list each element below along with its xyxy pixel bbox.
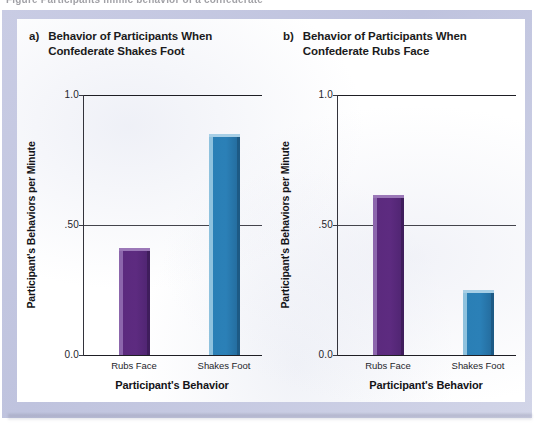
bar-b-shakes-foot-body (463, 293, 494, 355)
bar-b-shakes-foot-shadow (491, 293, 494, 355)
bar-b-shakes-foot[interactable] (463, 290, 494, 355)
x-axis-title-b: Participant's Behavior (327, 379, 525, 391)
x-axis-title-a: Participant's Behavior (73, 379, 271, 391)
bar-a-rubs-face[interactable] (119, 248, 150, 355)
bar-a-rubs-face-highlight (119, 251, 123, 355)
bar-a-shakes-foot-body (209, 137, 240, 355)
y-axis-title-b: Participant's Behaviors per Minute (276, 95, 293, 355)
y-tick-label-1.0-b: 1.0 (299, 89, 333, 100)
y-tick-label-1.0-a: 1.0 (45, 89, 79, 100)
bar-b-rubs-face-highlight (373, 198, 377, 355)
bar-a-shakes-foot-highlight (209, 137, 213, 355)
axis-baseline-b (337, 355, 516, 356)
y-tick-label-0.0-a: 0.0 (45, 349, 79, 360)
bar-a-rubs-face-shadow (147, 251, 150, 355)
figure-root: Figure Participants mimic behavior of a … (0, 0, 534, 430)
chart-panel-b: b) Behavior of Participants When Confede… (271, 19, 525, 402)
y-axis-title-a: Participant's Behaviors per Minute (22, 95, 39, 355)
bar-b-rubs-face-body (373, 198, 404, 355)
bar-b-rubs-face-shadow (401, 198, 404, 355)
axis-baseline-a (83, 355, 262, 356)
clipped-figure-caption: Figure Participants mimic behavior of a … (0, 0, 534, 9)
x-category-label-a-shakes-foot: Shakes Foot (185, 360, 263, 371)
y-axis-line-a (83, 95, 84, 356)
bar-a-rubs-face-body (119, 251, 150, 355)
y-tick-label-0.0-b: 0.0 (299, 349, 333, 360)
bar-b-rubs-face[interactable] (373, 195, 404, 355)
y-tick-label-0.50-a: .50 (45, 219, 79, 230)
x-category-label-b-rubs-face: Rubs Face (349, 360, 427, 371)
bar-a-shakes-foot[interactable] (209, 134, 240, 355)
bar-a-shakes-foot-shadow (237, 137, 240, 355)
x-category-label-b-shakes-foot: Shakes Foot (439, 360, 517, 371)
gridline-1.0-a (83, 95, 262, 96)
y-tick-label-0.50-b: .50 (299, 219, 333, 230)
bar-b-shakes-foot-highlight (463, 293, 467, 355)
gridline-0.50-b (337, 225, 516, 226)
gridline-1.0-b (337, 95, 516, 96)
chart-panel-a: a) Behavior of Participants When Confede… (17, 19, 271, 402)
plot-area-b: Participant's Behaviors per Minute 1.0 .… (271, 19, 525, 402)
plot-area-a: Participant's Behaviors per Minute 1.0 .… (17, 19, 271, 402)
figure-drop-shadow (8, 414, 532, 421)
x-category-label-a-rubs-face: Rubs Face (95, 360, 173, 371)
y-axis-line-b (337, 95, 338, 356)
